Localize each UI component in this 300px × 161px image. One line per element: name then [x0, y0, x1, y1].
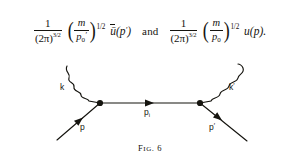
- formula-expression-right: 1 (2π)3/2 ( m p0 ) 1/2 u(p).: [170, 18, 267, 44]
- ratio-denominator-right: p0: [210, 31, 223, 44]
- ratio-denominator-prime-left: ′: [85, 31, 87, 40]
- incoming-fermion-label: p: [80, 122, 85, 132]
- denominator-exponent-right: 3/2: [189, 31, 197, 38]
- mass-energy-ratio-left: m p0′: [74, 18, 89, 44]
- internal-line-arrowhead: [145, 100, 154, 107]
- ratio-numerator-right: m: [211, 18, 223, 30]
- outgoing-photon-wavy-line: [200, 64, 243, 103]
- formula-trailing-period: .: [263, 25, 266, 37]
- ratio-denominator-left: p0′: [74, 31, 89, 44]
- spinor-symbol-left: ū: [110, 25, 116, 37]
- mass-energy-ratio-right: m p0: [210, 18, 223, 44]
- fraction-denominator-right: (2π)3/2: [170, 31, 198, 44]
- formula-line: 1 (2π)3/2 ( m p0′ ) 1/2 ū(p′) and 1: [0, 8, 300, 54]
- denominator-exponent-left: 3/2: [53, 31, 61, 38]
- outgoing-photon-label-prime: ′: [233, 82, 234, 89]
- paren-open-left: (: [68, 21, 74, 41]
- outgoing-photon-label: k′: [229, 82, 235, 92]
- fraction-denominator-left: (2π)3/2: [34, 31, 62, 44]
- paren-exponent-left: 1/2: [97, 23, 106, 31]
- left-vertex-dot: [97, 100, 103, 106]
- incoming-photon-wavy-line: [66, 66, 100, 103]
- ratio-group-right: ( m p0 ) 1/2: [202, 18, 239, 44]
- prefactor-fraction-right: 1 (2π)3/2: [170, 18, 198, 44]
- denominator-base-left: (2π): [35, 32, 53, 44]
- spinor-left: ū(p′): [110, 25, 131, 37]
- figure-caption: FIG. 6: [0, 143, 300, 153]
- ratio-denominator-subscript-right: 0: [217, 36, 221, 44]
- paren-close-right: ): [224, 21, 230, 41]
- right-vertex-dot: [197, 100, 203, 106]
- outgoing-fermion-line: [200, 103, 247, 141]
- fraction-numerator-left: 1: [42, 18, 54, 30]
- ratio-numerator-left: m: [76, 18, 88, 30]
- ratio-group-left: ( m p0′ ) 1/2: [67, 18, 105, 44]
- denominator-base-right: (2π): [171, 32, 189, 44]
- fraction-numerator-right: 1: [178, 18, 190, 30]
- incoming-photon-label: k: [60, 82, 64, 92]
- internal-fermion-label-subscript: i: [149, 112, 150, 118]
- outgoing-fermion-label: p′: [209, 122, 215, 132]
- formula-conjunction: and: [142, 25, 158, 37]
- spinor-right: u(p).: [244, 25, 266, 37]
- feynman-diagram: k k′ p pi p′: [0, 52, 300, 142]
- caption-rest: IG: [143, 145, 152, 153]
- prefactor-fraction-left: 1 (2π)3/2: [34, 18, 62, 44]
- spinor-arg-close-left: ): [127, 25, 131, 37]
- paren-exponent-right: 1/2: [230, 23, 239, 31]
- paren-open-right: (: [203, 21, 209, 41]
- figure-page: 1 (2π)3/2 ( m p0′ ) 1/2 ū(p′) and 1: [0, 0, 300, 161]
- formula-expression-left: 1 (2π)3/2 ( m p0′ ) 1/2 ū(p′): [34, 18, 131, 44]
- caption-number: . 6: [152, 143, 162, 153]
- outgoing-fermion-label-prime: ′: [214, 122, 215, 129]
- internal-fermion-label: pi: [144, 107, 150, 118]
- paren-close-left: ): [90, 21, 96, 41]
